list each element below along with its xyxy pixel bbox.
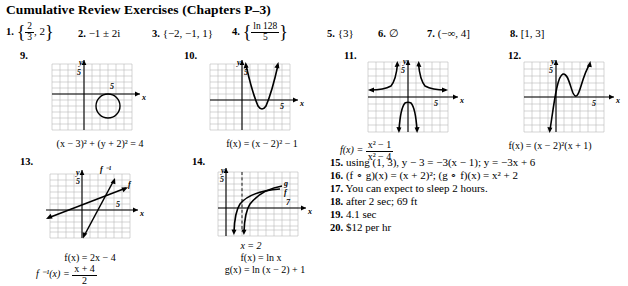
fraction-numerator: x + 4 bbox=[72, 264, 97, 276]
x-axis-label: x bbox=[307, 207, 312, 216]
figure-13-caption-1: f(x) = 2x − 4 bbox=[30, 252, 150, 263]
figure-number: 11. bbox=[344, 50, 357, 61]
answer-item-17: 17. You can expect to sleep 2 hours. bbox=[330, 182, 488, 194]
answer-item-5: 5. {3} bbox=[327, 27, 354, 39]
answer-number: 1. bbox=[6, 26, 14, 37]
figure-14-caption-2: g(x) = ln (x − 2) + 1 bbox=[180, 264, 350, 275]
graph-11-plot: y x 5 5 bbox=[360, 58, 482, 136]
curve-label-g: g bbox=[283, 179, 288, 188]
answer-value: (f ∘ g)(x) = (x + 2)²; (g ∘ f)(x) = x² +… bbox=[346, 169, 518, 181]
graph-13-plot: y x 5 5 f f ⁻¹ bbox=[40, 162, 164, 244]
brace-open: { bbox=[243, 25, 252, 39]
graph-14-plot: y x 5 7 g f bbox=[208, 162, 332, 244]
figure-9-caption: (x − 3)² + (y + 2)² = 4 bbox=[20, 138, 180, 149]
answer-number: 16. bbox=[330, 170, 343, 181]
caption-lead: f(x) = bbox=[340, 144, 366, 155]
x-axis-label: x bbox=[139, 209, 144, 218]
y-axis-label: y bbox=[550, 58, 555, 66]
fraction: 23 bbox=[25, 22, 34, 43]
answer-value: {−2, −1, 1} bbox=[163, 27, 213, 39]
caption-lead: f ⁻¹(x) = bbox=[36, 268, 72, 279]
curve-label-f-inverse: f ⁻¹ bbox=[100, 165, 112, 174]
answer-number: 20. bbox=[330, 222, 343, 233]
answer-number: 7. bbox=[427, 28, 435, 39]
y-tick-label: 5 bbox=[76, 177, 80, 186]
graph-9-plot: y x 5 5 bbox=[42, 58, 160, 134]
answer-number: 3. bbox=[152, 28, 160, 39]
answer-value: (−∞, 4] bbox=[438, 27, 470, 39]
answer-item-2: 2. −1 ± 2i bbox=[78, 27, 120, 39]
y-axis-label: y bbox=[220, 166, 225, 175]
y-tick-label: 5 bbox=[549, 66, 553, 75]
answer-item-16: 16. (f ∘ g)(x) = (x + 2)²; (g ∘ f)(x) = … bbox=[330, 169, 518, 182]
answer-item-8: 8. [1, 3] bbox=[510, 27, 544, 39]
answer-item-19: 19. 4.1 sec bbox=[330, 208, 376, 220]
answer-value: after 2 sec; 69 ft bbox=[346, 195, 417, 207]
fraction: ln 1285 bbox=[251, 22, 279, 43]
y-axis-label: y bbox=[78, 58, 83, 67]
answer-item-18: 18. after 2 sec; 69 ft bbox=[330, 195, 417, 207]
figure-number: 9. bbox=[20, 50, 28, 61]
brace-close: } bbox=[279, 25, 288, 39]
y-tick-label: 5 bbox=[77, 68, 81, 77]
answer-value: ∅ bbox=[389, 27, 399, 39]
graph-12-plot: y x 5 5 bbox=[516, 58, 628, 136]
page-title: Cumulative Review Exercises (Chapters P–… bbox=[6, 2, 271, 18]
answer-item-4: 4. {ln 1285} bbox=[232, 22, 288, 43]
fraction-numerator: x² − 1 bbox=[366, 140, 394, 152]
answer-value: $12 per hr bbox=[346, 221, 391, 233]
fraction-denominator: 5 bbox=[251, 33, 279, 43]
figure-14-caption-1: f(x) = ln x bbox=[196, 252, 326, 263]
answer-item-15: 15. using (1, 3), y − 3 = −3(x − 1); y =… bbox=[330, 156, 535, 168]
answer-number: 18. bbox=[330, 196, 343, 207]
answer-value: using (1, 3), y − 3 = −3(x − 1); y = −3x… bbox=[346, 156, 535, 168]
x-tick-label: 5 bbox=[434, 99, 438, 108]
answer-number: 8. bbox=[510, 28, 518, 39]
answer-number: 6. bbox=[378, 28, 386, 39]
graph-10-plot: y x 5 5 bbox=[200, 58, 320, 134]
answer-item-7: 7. (−∞, 4] bbox=[427, 27, 470, 39]
answer-number: 19. bbox=[330, 209, 343, 220]
answer-item-20: 20. $12 per hr bbox=[330, 221, 391, 233]
answer-value: You can expect to sleep 2 hours. bbox=[345, 182, 487, 194]
figure-13-caption-2: f ⁻¹(x) = x + 42 bbox=[36, 264, 97, 286]
answer-number: 4. bbox=[232, 26, 240, 37]
x-axis-label: x bbox=[615, 96, 620, 105]
x-axis-label: x bbox=[459, 96, 464, 105]
figure-10-caption: f(x) = (x − 2)² − 1 bbox=[172, 138, 352, 149]
curve-label-f: f bbox=[284, 188, 288, 197]
x-tick-label: 5 bbox=[110, 82, 114, 91]
brace-open: { bbox=[17, 25, 26, 39]
figure-12-caption: f(x) = (x − 2)²(x + 1) bbox=[480, 140, 620, 151]
y-tick-label: 5 bbox=[220, 175, 224, 184]
x-axis-label: x bbox=[299, 99, 304, 108]
curve-label-f: f bbox=[128, 180, 132, 189]
answer-number: 2. bbox=[78, 28, 86, 39]
fraction-denominator: 2 bbox=[72, 276, 97, 286]
answer-tail: , 2 bbox=[34, 25, 45, 37]
y-tick-label: 5 bbox=[244, 68, 248, 77]
figure-number: 14. bbox=[192, 156, 205, 167]
y-axis-label: y bbox=[402, 58, 407, 66]
figure-number: 13. bbox=[20, 156, 33, 167]
figure-14-asymptote-label: x = 2 bbox=[216, 240, 286, 251]
answer-item-3: 3. {−2, −1, 1} bbox=[152, 27, 213, 39]
answer-value: −1 ± 2i bbox=[89, 27, 121, 39]
answer-number: 15. bbox=[330, 157, 343, 168]
y-axis-label: y bbox=[236, 58, 241, 67]
answer-value: {3} bbox=[338, 27, 354, 39]
x-tick-label: 5 bbox=[280, 102, 284, 111]
x-tick-label: 5 bbox=[116, 200, 120, 209]
answer-number: 5. bbox=[327, 28, 335, 39]
answer-value: [1, 3] bbox=[521, 27, 545, 39]
answer-item-6: 6. ∅ bbox=[378, 27, 399, 40]
x-axis-label: x bbox=[141, 93, 146, 102]
x-tick-label: 5 bbox=[592, 99, 596, 108]
y-tick-label: 5 bbox=[401, 66, 405, 75]
caption-fraction: x + 42 bbox=[72, 264, 97, 286]
answer-item-1: 1. {23, 2} bbox=[6, 22, 54, 43]
fraction-denominator: 3 bbox=[25, 33, 34, 43]
figure-number: 10. bbox=[184, 50, 197, 61]
y-axis-label: y bbox=[75, 168, 80, 177]
